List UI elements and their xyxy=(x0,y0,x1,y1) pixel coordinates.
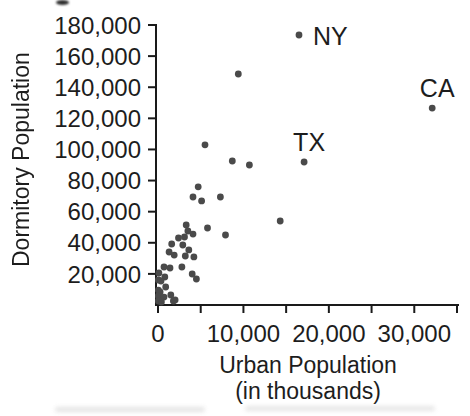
y-tick-label: 160,000 xyxy=(54,43,141,70)
y-tick-label: 180,000 xyxy=(54,12,141,39)
x-axis-title: Urban Population xyxy=(158,352,458,378)
data-point xyxy=(175,235,182,242)
state-label-tx: TX xyxy=(293,128,325,156)
data-point xyxy=(156,270,163,277)
x-axis-title-block: Urban Population (in thousands) xyxy=(158,352,458,404)
state-label-ca: CA xyxy=(420,74,455,102)
data-point xyxy=(181,234,188,241)
data-point xyxy=(235,71,242,78)
data-point xyxy=(190,231,197,238)
data-point xyxy=(185,247,192,254)
data-point xyxy=(246,162,253,169)
data-point xyxy=(167,265,174,272)
data-point xyxy=(158,278,165,285)
data-point xyxy=(229,158,236,165)
data-point xyxy=(191,254,198,261)
data-point xyxy=(202,141,209,148)
x-tick-label: 10,000 xyxy=(207,320,280,347)
x-axis-subtitle: (in thousands) xyxy=(158,378,458,404)
data-point xyxy=(222,232,229,239)
x-tick-label: 30,000 xyxy=(378,320,451,347)
y-tick-label: 20,000 xyxy=(68,261,141,288)
data-point-ca xyxy=(429,105,436,112)
data-point xyxy=(168,241,175,248)
y-tick-label: 80,000 xyxy=(68,167,141,194)
y-tick-label: 120,000 xyxy=(54,105,141,132)
y-axis-title: Dormitory Population xyxy=(5,38,37,282)
data-point xyxy=(183,222,190,229)
data-point xyxy=(277,218,284,225)
data-point xyxy=(171,252,178,259)
data-point xyxy=(195,183,202,190)
x-tick-label: 0 xyxy=(151,320,164,347)
data-point xyxy=(217,194,224,201)
data-point xyxy=(193,276,200,283)
data-point xyxy=(179,264,186,271)
y-tick-label: 60,000 xyxy=(68,198,141,225)
data-point xyxy=(204,225,211,232)
data-point xyxy=(162,284,169,291)
data-point xyxy=(182,253,189,260)
y-tick-label: 40,000 xyxy=(68,229,141,256)
data-point xyxy=(198,198,205,205)
data-point xyxy=(179,242,186,249)
data-point xyxy=(161,264,168,271)
y-tick-label: 140,000 xyxy=(54,74,141,101)
data-point-tx xyxy=(301,159,308,166)
data-point-ny xyxy=(296,32,303,39)
state-label-ny: NY xyxy=(313,22,348,50)
data-point xyxy=(170,298,177,305)
y-tick-label: 100,000 xyxy=(54,136,141,163)
data-point xyxy=(190,194,197,201)
x-tick-label: 20,000 xyxy=(292,320,365,347)
data-point xyxy=(158,299,165,306)
scatter-figure: 20,00040,00060,00080,000100,000120,00014… xyxy=(0,0,470,416)
